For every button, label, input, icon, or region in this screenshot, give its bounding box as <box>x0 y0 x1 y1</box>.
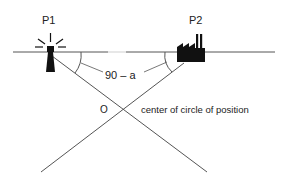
label-center-point: O <box>100 104 108 115</box>
celestial-position-diagram: P1 P2 90 – a O center of circle of posit… <box>0 0 299 181</box>
factory-icon <box>177 34 205 62</box>
angle-arc-p1 <box>75 52 81 73</box>
label-p2: P2 <box>189 14 202 26</box>
angle-leader-right <box>144 62 167 72</box>
angle-leader-left <box>81 63 103 72</box>
label-center-caption: center of circle of position <box>141 104 249 115</box>
angle-arc-p2 <box>165 52 172 72</box>
label-angle: 90 – a <box>105 69 136 81</box>
label-p1: P1 <box>42 14 55 26</box>
